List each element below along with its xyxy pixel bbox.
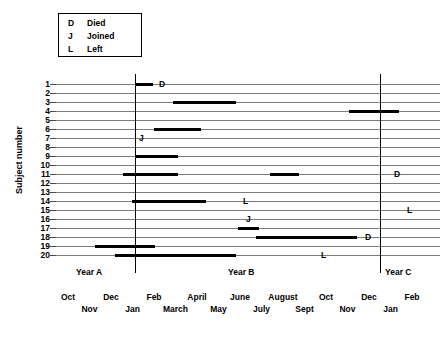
observation-bar bbox=[123, 173, 178, 176]
observation-bar bbox=[132, 200, 206, 203]
legend-entry-died: D Died bbox=[59, 17, 141, 30]
subject-line bbox=[56, 174, 440, 175]
legend-label-left: Left bbox=[87, 43, 103, 56]
year-band-label-c: Year C bbox=[385, 268, 411, 277]
y-axis-tick bbox=[50, 237, 56, 238]
x-axis-month-label: Sept bbox=[295, 305, 313, 314]
subject-line bbox=[56, 255, 440, 256]
x-axis-month-label: August bbox=[268, 293, 297, 302]
y-axis-tick-label: 7 bbox=[30, 134, 50, 143]
y-axis-tick-label: 6 bbox=[30, 125, 50, 134]
observation-bar bbox=[115, 254, 236, 257]
y-axis-tick-label: 16 bbox=[30, 215, 50, 224]
y-axis-tick-label: 18 bbox=[30, 233, 50, 242]
subject-line bbox=[56, 156, 440, 157]
y-axis-tick bbox=[50, 120, 56, 121]
event-marker-j: J bbox=[139, 134, 144, 143]
subject-line bbox=[56, 84, 440, 85]
y-axis-tick-label: 8 bbox=[30, 143, 50, 152]
observation-bar bbox=[154, 128, 201, 131]
y-axis-tick bbox=[50, 138, 56, 139]
y-axis-tick-label: 14 bbox=[30, 197, 50, 206]
y-axis-tick-label: 15 bbox=[30, 206, 50, 215]
observation-bar bbox=[349, 110, 399, 113]
subject-line bbox=[56, 93, 440, 94]
legend-entry-joined: J Joined bbox=[59, 30, 141, 43]
y-axis-tick bbox=[50, 255, 56, 256]
y-axis-tick-label: 12 bbox=[30, 179, 50, 188]
x-axis-month-label: June bbox=[230, 293, 250, 302]
x-axis-month-label: Oct bbox=[61, 293, 75, 302]
y-axis-tick-label: 11 bbox=[30, 170, 50, 179]
event-marker-l: L bbox=[243, 197, 248, 206]
observation-bar bbox=[135, 83, 153, 86]
x-axis-month-label: Feb bbox=[404, 293, 419, 302]
y-axis-tick-label: 4 bbox=[30, 107, 50, 116]
observation-bar bbox=[95, 245, 155, 248]
y-axis-tick bbox=[50, 111, 56, 112]
event-marker-d: D bbox=[365, 233, 371, 242]
x-axis-month-label: Oct bbox=[319, 293, 333, 302]
event-marker-j: J bbox=[246, 215, 251, 224]
legend-label-died: Died bbox=[87, 17, 105, 30]
subject-line bbox=[56, 102, 440, 103]
y-axis-tick bbox=[50, 93, 56, 94]
y-axis-tick-label: 13 bbox=[30, 188, 50, 197]
y-axis-tick bbox=[50, 192, 56, 193]
observation-bar bbox=[270, 173, 299, 176]
y-axis-tick-label: 20 bbox=[30, 251, 50, 260]
y-axis-tick bbox=[50, 246, 56, 247]
legend-box: D Died J Joined L Left bbox=[58, 13, 142, 57]
x-axis-month-label: Nov bbox=[81, 305, 97, 314]
plot-area: 1D234567J891011D121314L15L16J1718D1920L bbox=[56, 80, 440, 265]
year-band-label-b: Year B bbox=[228, 268, 254, 277]
y-axis-tick-label: 3 bbox=[30, 98, 50, 107]
y-axis-tick-label: 17 bbox=[30, 224, 50, 233]
legend-entry-left: L Left bbox=[59, 43, 141, 56]
subject-line bbox=[56, 120, 440, 121]
x-axis-month-label: July bbox=[253, 305, 270, 314]
y-axis-tick bbox=[50, 129, 56, 130]
event-marker-l: L bbox=[407, 206, 412, 215]
year-divider-2 bbox=[380, 74, 381, 273]
y-axis-tick-label: 2 bbox=[30, 89, 50, 98]
y-axis-tick-label: 5 bbox=[30, 116, 50, 125]
y-axis-tick-label: 10 bbox=[30, 161, 50, 170]
y-axis-tick bbox=[50, 156, 56, 157]
x-axis-month-label: Jan bbox=[383, 305, 398, 314]
legend-key-l: L bbox=[68, 43, 80, 56]
x-axis-month-label: Nov bbox=[339, 305, 355, 314]
event-marker-d: D bbox=[159, 80, 165, 89]
y-axis-tick bbox=[50, 147, 56, 148]
x-axis-month-label: Dec bbox=[361, 293, 377, 302]
x-axis-month-label: Jan bbox=[125, 305, 140, 314]
y-axis-tick bbox=[50, 183, 56, 184]
legend-key-d: D bbox=[68, 17, 80, 30]
y-axis-tick bbox=[50, 201, 56, 202]
year-band-label-a: Year A bbox=[76, 268, 102, 277]
observation-bar bbox=[135, 155, 178, 158]
event-marker-d: D bbox=[394, 170, 400, 179]
subject-line bbox=[56, 192, 440, 193]
y-axis-tick bbox=[50, 210, 56, 211]
observation-bar bbox=[256, 236, 357, 239]
y-axis-tick bbox=[50, 219, 56, 220]
observation-bar bbox=[173, 101, 236, 104]
x-axis-month-label: May bbox=[210, 305, 227, 314]
survival-timeline-figure: D Died J Joined L Left Subject number 1D… bbox=[0, 0, 444, 340]
y-axis-title: Subject number bbox=[14, 105, 24, 215]
y-axis-tick bbox=[50, 84, 56, 85]
subject-line bbox=[56, 129, 440, 130]
x-axis-month-label: Dec bbox=[103, 293, 119, 302]
y-axis-tick-label: 9 bbox=[30, 152, 50, 161]
subject-line bbox=[56, 237, 440, 238]
legend-label-joined: Joined bbox=[87, 30, 114, 43]
subject-line bbox=[56, 138, 440, 139]
legend-key-j: J bbox=[68, 30, 80, 43]
y-axis-tick-label: 19 bbox=[30, 242, 50, 251]
event-marker-l: L bbox=[321, 251, 326, 260]
year-divider-1 bbox=[135, 74, 136, 273]
x-axis-month-label: March bbox=[163, 305, 188, 314]
observation-bar bbox=[238, 227, 259, 230]
subject-line bbox=[56, 210, 440, 211]
